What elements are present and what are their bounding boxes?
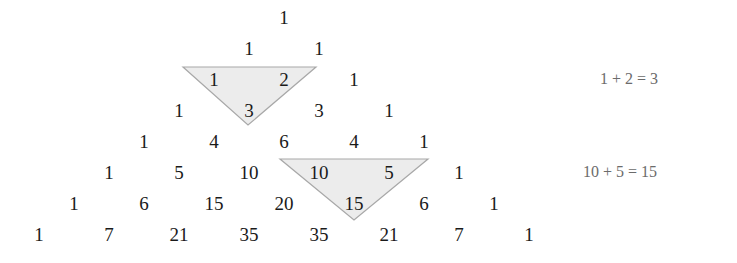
triangle-cell: 6 [419, 194, 429, 213]
triangle-cell: 1 [104, 163, 114, 182]
triangle-cell: 10 [310, 163, 329, 182]
triangle-cell: 1 [139, 132, 149, 151]
triangle-cell: 5 [174, 163, 184, 182]
equation-1: 1 + 2 = 3 [600, 71, 658, 87]
equation-2: 10 + 5 = 15 [583, 164, 657, 180]
triangle-cell: 35 [240, 225, 259, 244]
triangle-cell: 21 [170, 225, 189, 244]
triangle-cell: 1 [419, 132, 429, 151]
triangle-cell: 1 [244, 39, 254, 58]
triangle-cell: 21 [380, 225, 399, 244]
triangle-cell: 7 [104, 225, 114, 244]
triangle-cell: 1 [454, 163, 464, 182]
triangle-cell: 6 [139, 194, 149, 213]
triangle-cell: 3 [314, 101, 324, 120]
triangle-cell: 4 [209, 132, 219, 151]
triangle-cell: 20 [275, 194, 294, 213]
triangle-cell: 1 [279, 8, 289, 27]
triangle-cell: 1 [314, 39, 324, 58]
triangle-cell: 15 [345, 194, 364, 213]
triangle-cell: 3 [244, 101, 254, 120]
triangle-cell: 35 [310, 225, 329, 244]
triangle-cell: 1 [209, 70, 219, 89]
triangle-cell: 1 [349, 70, 359, 89]
triangle-cell: 1 [489, 194, 499, 213]
pascal-triangle-diagram: 1111211331146411510105116152015611721353… [0, 0, 737, 263]
triangle-cell: 1 [524, 225, 534, 244]
triangle-cell: 5 [384, 163, 394, 182]
triangle-cell: 7 [454, 225, 464, 244]
triangle-cell: 1 [384, 101, 394, 120]
triangle-cell: 1 [34, 225, 44, 244]
triangle-cell: 4 [349, 132, 359, 151]
triangle-cell: 15 [205, 194, 224, 213]
triangle-cell: 1 [69, 194, 79, 213]
triangle-cell: 10 [240, 163, 259, 182]
triangle-cell: 1 [174, 101, 184, 120]
triangle-cell: 2 [279, 70, 289, 89]
triangle-cell: 6 [279, 132, 289, 151]
